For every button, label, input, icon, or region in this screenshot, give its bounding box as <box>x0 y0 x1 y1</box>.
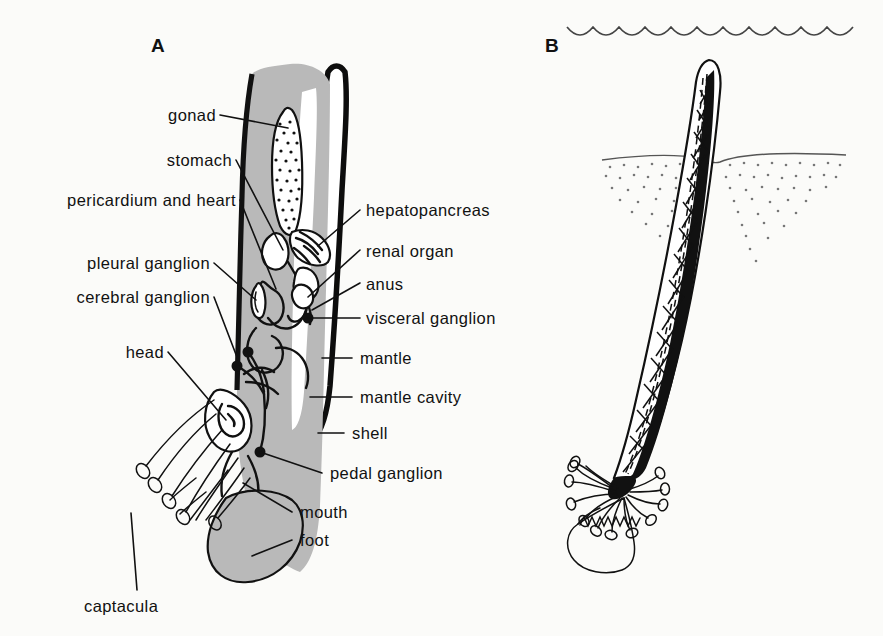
label-stomach: stomach <box>167 151 232 169</box>
renal-organ <box>292 285 313 309</box>
panel-a-letter: A <box>151 35 165 56</box>
label-hepatopancreas: hepatopancreas <box>366 201 490 219</box>
label-cerebral-ganglion: cerebral ganglion <box>77 288 210 306</box>
sediment-stipple <box>605 162 842 264</box>
label-mantle: mantle <box>360 349 412 367</box>
label-visceral-ganglion: visceral ganglion <box>366 309 496 327</box>
foot-organ <box>208 491 303 583</box>
panel-b: B <box>545 27 853 573</box>
label-anus: anus <box>366 275 403 293</box>
label-pleural-ganglion: pleural ganglion <box>87 254 210 272</box>
leader-captacula <box>131 513 137 590</box>
label-renal-organ: renal organ <box>366 242 454 260</box>
label-captacula: captacula <box>84 597 159 615</box>
extended-foot-b <box>568 498 640 573</box>
pleural-ganglion <box>251 283 265 318</box>
label-gonad: gonad <box>168 106 216 124</box>
leader-head <box>168 352 226 420</box>
panel-b-letter: B <box>545 35 559 56</box>
panel-a: A <box>67 35 496 615</box>
label-pedal-ganglion: pedal ganglion <box>330 464 443 482</box>
label-mouth: mouth <box>300 503 348 521</box>
water-surface-line <box>567 27 853 35</box>
label-foot: foot <box>300 531 329 549</box>
label-head: head <box>126 343 164 361</box>
label-pericardium-and-heart: pericardium and heart <box>67 191 236 209</box>
gonad-organ <box>272 108 302 235</box>
sediment-surface-line <box>602 153 846 162</box>
scaphopod-figure: A <box>0 0 883 636</box>
label-mantle-cavity: mantle cavity <box>360 388 462 406</box>
label-shell: shell <box>352 424 388 442</box>
tusk-shell <box>614 60 721 480</box>
